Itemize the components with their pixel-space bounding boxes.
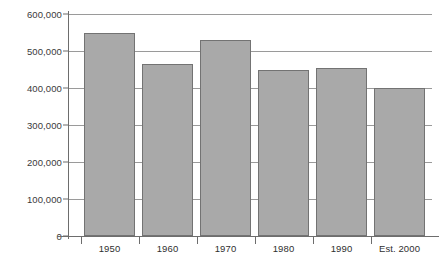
y-axis-label: 600,000 — [0, 9, 62, 20]
y-axis-tick — [63, 199, 69, 200]
y-axis-label: 500,000 — [0, 46, 62, 57]
y-axis-label: 100,000 — [0, 194, 62, 205]
y-axis-tick — [63, 162, 69, 163]
x-axis-label: 1980 — [273, 243, 295, 254]
y-axis-tick — [63, 236, 69, 237]
bar-chart: 600,000 500,000 400,000 300,000 200,000 … — [0, 0, 447, 263]
x-axis-label: 1990 — [331, 243, 353, 254]
bar-1960[interactable] — [142, 64, 193, 236]
x-axis-label: Est. 2000 — [379, 243, 420, 254]
x-axis-label: 1970 — [215, 243, 237, 254]
y-axis-label: 400,000 — [0, 83, 62, 94]
y-axis-tick — [63, 14, 69, 15]
bar-series — [68, 14, 432, 236]
x-axis-labels: 1950 1960 1970 1980 1990 Est. 2000 — [68, 243, 432, 261]
y-axis-label: 300,000 — [0, 120, 62, 131]
y-axis-label: 200,000 — [0, 157, 62, 168]
bar-1950[interactable] — [84, 33, 135, 237]
y-axis-label: 0 — [0, 231, 62, 242]
bar-1970[interactable] — [200, 40, 251, 236]
bar-1980[interactable] — [258, 70, 309, 237]
y-axis-tick — [63, 51, 69, 52]
x-axis-label: 1960 — [157, 243, 179, 254]
x-axis-label: 1950 — [99, 243, 121, 254]
bar-est-2000[interactable] — [374, 88, 425, 236]
bar-1990[interactable] — [316, 68, 367, 236]
y-axis-labels: 600,000 500,000 400,000 300,000 200,000 … — [0, 0, 62, 263]
y-axis-tick — [63, 88, 69, 89]
y-axis-tick — [63, 125, 69, 126]
